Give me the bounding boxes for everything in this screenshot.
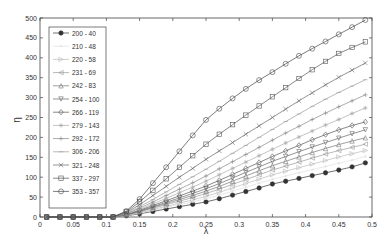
point-marker-icon bbox=[232, 190, 234, 192]
legend-label: 254 - 100 bbox=[72, 96, 100, 103]
circle-filled-marker-icon bbox=[310, 173, 314, 177]
legend-label: 220 - 58 bbox=[72, 56, 96, 63]
legend-label: 200 - 40 bbox=[72, 30, 96, 37]
x-tick-label: 0.4 bbox=[301, 221, 311, 228]
x-tick-label: 0.3 bbox=[234, 221, 244, 228]
x-tick-label: 0.45 bbox=[332, 221, 346, 228]
legend-label: 210 - 48 bbox=[72, 43, 96, 50]
legend-item: 337 - 297 bbox=[53, 175, 100, 182]
y-tick-label: 100 bbox=[25, 174, 37, 181]
circle-filled-marker-icon bbox=[217, 196, 221, 200]
y-tick-label: 0 bbox=[33, 214, 37, 221]
x-tick-label: 0 bbox=[38, 221, 42, 228]
point-marker-icon bbox=[218, 194, 220, 196]
y-tick-label: 450 bbox=[25, 34, 37, 41]
circle-filled-marker-icon bbox=[363, 161, 367, 165]
legend-label: 266 - 119 bbox=[72, 109, 99, 116]
x-tick-label: 0.2 bbox=[168, 221, 178, 228]
point-marker-icon bbox=[272, 178, 274, 180]
point-marker-icon bbox=[245, 186, 247, 188]
line-chart: 00.050.10.150.20.250.30.350.40.450.5 050… bbox=[0, 0, 392, 246]
y-axis-label: η bbox=[11, 117, 22, 123]
point-marker-icon bbox=[365, 156, 367, 158]
circle-filled-marker-icon bbox=[59, 31, 63, 35]
point-marker-icon bbox=[60, 45, 62, 47]
legend-label: 279 - 143 bbox=[72, 122, 100, 129]
circle-filled-marker-icon bbox=[283, 179, 287, 183]
point-marker-icon bbox=[351, 159, 353, 161]
circle-filled-marker-icon bbox=[297, 176, 301, 180]
circle-filled-marker-icon bbox=[350, 165, 354, 169]
circle-filled-marker-icon bbox=[337, 168, 341, 172]
legend-label: 321 - 248 bbox=[72, 162, 100, 169]
x-tick-label: 0.35 bbox=[266, 221, 280, 228]
point-marker-icon bbox=[285, 175, 287, 177]
point-marker-icon bbox=[338, 162, 340, 164]
circle-filled-marker-icon bbox=[204, 200, 208, 204]
y-tick-label: 250 bbox=[25, 114, 37, 121]
legend-item: 353 - 357 bbox=[53, 188, 100, 195]
y-tick-label: 200 bbox=[25, 134, 37, 141]
y-tick-label: 50 bbox=[29, 194, 37, 201]
circle-filled-marker-icon bbox=[244, 189, 248, 193]
point-marker-icon bbox=[325, 166, 327, 168]
x-tick-label: 0.1 bbox=[102, 221, 112, 228]
point-marker-icon bbox=[205, 198, 207, 200]
x-tick-label: 0.5 bbox=[367, 221, 377, 228]
y-tick-label: 150 bbox=[25, 154, 37, 161]
legend-label: 306 - 206 bbox=[72, 148, 100, 155]
x-tick-label: 0.15 bbox=[133, 221, 147, 228]
legend-label: 337 - 297 bbox=[72, 175, 100, 182]
x-tick-label: 0.05 bbox=[66, 221, 80, 228]
circle-filled-marker-icon bbox=[323, 171, 327, 175]
point-marker-icon bbox=[298, 172, 300, 174]
legend-label: 292 - 172 bbox=[72, 135, 100, 142]
circle-filled-marker-icon bbox=[230, 193, 234, 197]
y-tick-label: 300 bbox=[25, 94, 37, 101]
circle-filled-marker-icon bbox=[257, 186, 261, 190]
point-marker-icon bbox=[258, 182, 260, 184]
y-tick-label: 400 bbox=[25, 54, 37, 61]
y-tick-label: 500 bbox=[25, 15, 37, 22]
circle-filled-marker-icon bbox=[270, 182, 274, 186]
x-axis-label: λ bbox=[204, 226, 209, 236]
legend-label: 353 - 357 bbox=[72, 188, 100, 195]
legend: 200 - 40210 - 48220 - 58231 - 69242 - 83… bbox=[49, 27, 106, 208]
legend-label: 242 - 83 bbox=[72, 82, 96, 89]
y-tick-label: 350 bbox=[25, 74, 37, 81]
legend-label: 231 - 69 bbox=[72, 69, 96, 76]
point-marker-icon bbox=[311, 169, 313, 171]
